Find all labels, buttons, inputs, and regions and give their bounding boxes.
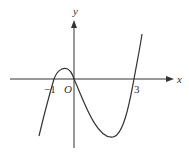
x-axis-label: x bbox=[176, 73, 182, 85]
cubic-function-graph: x y O −1 3 bbox=[0, 0, 189, 152]
tick-label-3: 3 bbox=[134, 83, 140, 95]
x-axis-arrow-icon bbox=[166, 76, 174, 82]
y-axis-arrow-icon bbox=[71, 20, 77, 28]
origin-label: O bbox=[64, 83, 72, 95]
y-axis-label: y bbox=[72, 5, 78, 17]
